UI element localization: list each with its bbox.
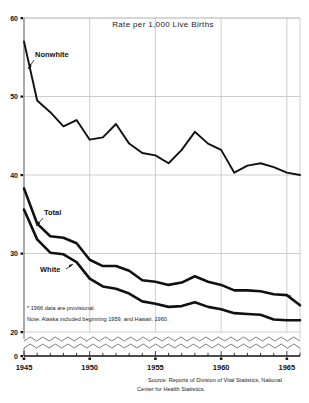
source-line-1: Source: Reports of Division of Vital Sta… <box>148 377 282 383</box>
x-tick-label: 1945 <box>16 363 33 372</box>
y-tick-label: 50 <box>10 93 18 100</box>
y-tick-marks <box>21 17 24 357</box>
x-tick-label: 1955 <box>147 363 164 372</box>
series-line-nonwhite <box>24 42 300 175</box>
y-tick-labels: 60504030200 <box>10 15 18 360</box>
series-label-white-text: White <box>40 265 60 274</box>
series-label-nonwhite-text: Nonwhite <box>35 50 69 59</box>
chart-title: Rate per 1,000 Live Births <box>112 20 214 29</box>
y-tick-label: 60 <box>10 15 18 22</box>
x-tick-label: 1965 <box>279 363 296 372</box>
white-leader-arrow <box>69 264 73 268</box>
source-line-2: Center for Health Statistics. <box>137 386 206 392</box>
chart-container: 60504030200 19451950195519601965 Rate pe… <box>0 0 309 403</box>
series-label-total: Total <box>36 208 61 226</box>
y-tick-label: 20 <box>10 329 18 336</box>
x-tick-label: 1950 <box>81 363 98 372</box>
series-label-nonwhite: Nonwhite <box>28 50 69 69</box>
footnote-alaska-hawaii: Note: Alaska included beginning 1959, an… <box>27 316 169 322</box>
gridlines <box>24 18 300 332</box>
x-tick-label: 1960 <box>213 363 230 372</box>
y-tick-label: 30 <box>10 250 18 257</box>
x-tick-labels: 19451950195519601965 <box>16 363 296 372</box>
footnote-provisional: * 1966 data are provisional. <box>27 305 96 311</box>
series-line-white <box>24 210 300 321</box>
series-line-total <box>24 188 300 305</box>
series-lines <box>24 42 300 321</box>
y-tick-label: 0 <box>14 353 18 360</box>
infant-mortality-line-chart: 60504030200 19451950195519601965 Rate pe… <box>0 0 309 403</box>
y-tick-label: 40 <box>10 172 18 179</box>
series-label-total-text: Total <box>44 208 61 217</box>
series-label-white: White <box>40 264 73 274</box>
y-axis-break-zigzag <box>24 337 300 348</box>
